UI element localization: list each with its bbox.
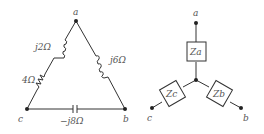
za-label: Za: [189, 47, 202, 57]
wye-label-b: b: [243, 113, 249, 123]
delta-node-b: [123, 107, 127, 111]
delta-label-b: b: [123, 114, 129, 124]
wye-node-a: [194, 21, 198, 25]
wye-node-b: [239, 106, 243, 110]
resistor-ca-icon: [36, 74, 45, 90]
circuit-diagram: a b c j2Ω 4Ω j6Ω −j8Ω a b c Za Zc Zb: [0, 0, 264, 134]
delta-wye-svg: a b c j2Ω 4Ω j6Ω −j8Ω a b c Za Zc Zb: [0, 0, 264, 134]
delta-wire-ab: [76, 21, 125, 109]
wye-node-c: [150, 106, 154, 110]
delta-node-a: [74, 19, 78, 23]
delta-label-a: a: [73, 7, 78, 17]
inductor-ca-icon: [54, 40, 67, 58]
label-4ohm: 4Ω: [21, 75, 36, 85]
label-j6: j6Ω: [108, 55, 127, 65]
label-neg-j8: −j8Ω: [60, 116, 84, 126]
delta-label-c: c: [18, 114, 23, 124]
delta-wire-ac: [27, 21, 76, 109]
zb-label: Zb: [212, 89, 225, 99]
delta-node-c: [25, 107, 29, 111]
wye-label-a: a: [193, 8, 198, 18]
wye-node-center: [194, 78, 198, 82]
capacitor-bc-icon: [73, 105, 77, 113]
zc-label: Zc: [165, 89, 177, 99]
wye-label-c: c: [147, 113, 152, 123]
inductor-ab-icon: [96, 56, 108, 78]
label-j2: j2Ω: [33, 42, 52, 52]
